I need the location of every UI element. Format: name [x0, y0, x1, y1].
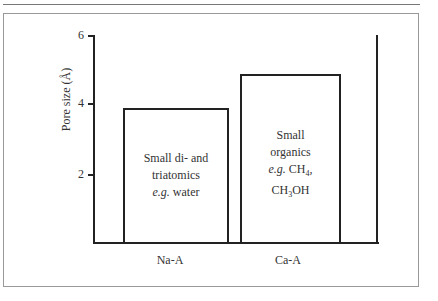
category-na-a: Na-A	[140, 253, 200, 268]
top-rule	[3, 4, 420, 5]
bar-ca-a-annotation: Small organics e.g. CH4, CH3OH	[242, 127, 339, 204]
tick-label-2: 2	[70, 167, 84, 182]
tick-2	[88, 174, 94, 176]
tick-6	[88, 35, 94, 37]
bar-na-a-annotation: Small di- and triatomics e.g. water	[125, 150, 227, 201]
category-ca-a: Ca-A	[258, 253, 318, 268]
y-axis	[93, 35, 95, 244]
tick-label-4: 4	[70, 96, 84, 111]
tick-4	[88, 103, 94, 105]
right-axis	[376, 35, 378, 244]
tick-label-6: 6	[70, 28, 84, 43]
